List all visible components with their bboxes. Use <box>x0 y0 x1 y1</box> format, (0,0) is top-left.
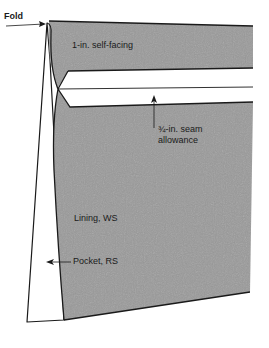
lining-label: Lining, WS <box>74 213 118 224</box>
pocket-label: Pocket, RS <box>73 256 118 267</box>
fold-arrow-line <box>6 24 44 26</box>
fold-arrow-icon <box>39 21 46 27</box>
seam-allowance-label-line2: allowance <box>158 135 238 146</box>
self-facing-label: 1-in. self-facing <box>72 40 133 51</box>
seam-allowance-label-line1: ¾-in. seam <box>158 124 238 135</box>
diagram-canvas <box>0 0 269 348</box>
seam-line <box>58 87 253 89</box>
fold-label: Fold <box>4 11 23 22</box>
self-facing-panel <box>49 21 253 89</box>
seam-allowance-label: ¾-in. seam allowance <box>158 124 238 146</box>
